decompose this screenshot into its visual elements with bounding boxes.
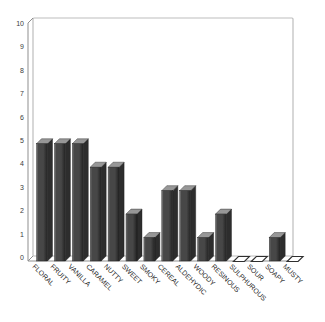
bar-front-face (108, 167, 119, 261)
chart-canvas: 012345678910 FLORALFRUITYVANILLACARAMELN… (0, 0, 325, 322)
bar-aldehydic (180, 186, 196, 261)
y-tick-label-0: 0 (20, 254, 24, 261)
bar-resinous (216, 209, 232, 261)
bar-side-face (65, 139, 70, 261)
bar-caramel (90, 162, 106, 261)
bar-musty (287, 257, 303, 262)
floor-left-edge (28, 256, 33, 261)
y-tick-layer: 012345678910 (16, 20, 24, 262)
y-tick-label-9: 9 (20, 43, 24, 50)
x-label-musty: MUSTY (282, 263, 305, 286)
axis-top-connector (28, 18, 33, 23)
bar-side-face (119, 162, 124, 261)
bar-front-face (144, 238, 155, 261)
bar-vanilla (72, 139, 88, 261)
y-tick-label-6: 6 (20, 114, 24, 121)
bar-woody (198, 233, 214, 261)
bar-front-face (72, 144, 83, 261)
bar-side-face (48, 139, 53, 261)
bar-side-face (173, 186, 178, 261)
bar-front-face (37, 144, 48, 261)
bar-sweet (126, 209, 142, 261)
bar-soapy (269, 233, 285, 261)
y-tick-label-2: 2 (20, 207, 24, 214)
bar-side-face (83, 139, 88, 261)
bar-side-face (137, 209, 142, 261)
bar-front-face (126, 214, 137, 261)
y-tick-label-8: 8 (20, 67, 24, 74)
bar-floral (37, 139, 53, 261)
y-tick-label-1: 1 (20, 231, 24, 238)
y-tick-label-7: 7 (20, 90, 24, 97)
bar-front-face (216, 214, 227, 261)
bar-front-face (269, 238, 280, 261)
bar-side-face (101, 162, 106, 261)
y-tick-label-4: 4 (20, 160, 24, 167)
bar-front-face (90, 167, 101, 261)
x-label-layer: FLORALFRUITYVANILLACARAMELNUTTYSWEETSMOK… (31, 263, 304, 303)
y-tick-label-10: 10 (16, 20, 24, 27)
zero-value-marker (287, 257, 303, 262)
y-tick-label-5: 5 (20, 137, 24, 144)
bar-front-face (162, 191, 173, 261)
bar-front-face (180, 191, 191, 261)
bar-nutty (108, 162, 124, 261)
bar-front-face (54, 144, 65, 261)
bar-cereal (162, 186, 178, 261)
bar-fruity (54, 139, 70, 261)
y-tick-label-3: 3 (20, 184, 24, 191)
bar-smoky (144, 233, 160, 261)
bar-side-face (191, 186, 196, 261)
bar-front-face (198, 238, 209, 261)
aroma-bar-chart: 012345678910 FLORALFRUITYVANILLACARAMELN… (0, 0, 325, 322)
bar-side-face (227, 209, 232, 261)
